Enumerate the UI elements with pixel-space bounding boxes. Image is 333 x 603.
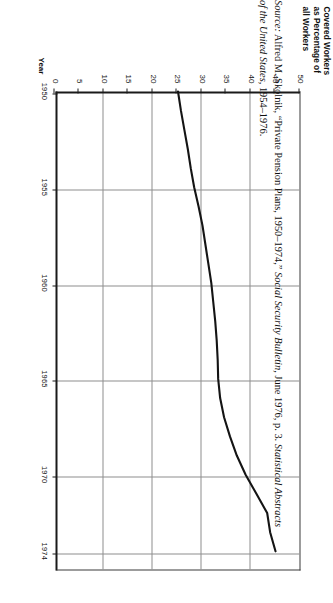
- x-axis-tick-label: 1955: [39, 178, 48, 196]
- source-publication-2: Statistical Abstracts: [273, 444, 284, 527]
- y-axis-tick-label: 50: [296, 65, 305, 83]
- source-text-a: Alfred M. Skolnik, “Private Pension Plan…: [273, 32, 284, 272]
- y-axis-tick-label: 30: [198, 65, 207, 83]
- source-note-line-1: Source: Alfred M. Skolnik, “Private Pens…: [271, 0, 286, 603]
- source-note: Source: Alfred M. Skolnik, “Private Pens…: [239, 0, 286, 603]
- source-text-e: 1954–1976.: [258, 84, 269, 136]
- y-axis-tick-label: 35: [222, 65, 231, 83]
- y-axis-title-line-2: as Percentage of: [310, 6, 320, 126]
- y-axis-tick-label: 10: [100, 65, 109, 83]
- y-axis-tick-label: 25: [173, 65, 182, 83]
- x-axis-tick-label: 1950: [39, 82, 48, 100]
- y-axis-tick-label: 5: [75, 65, 84, 83]
- y-axis-tick: [53, 88, 54, 93]
- source-label: Source:: [273, 0, 284, 32]
- source-text-c: June 1976, p. 3.: [273, 373, 284, 444]
- x-axis-tick-label: 1970: [39, 465, 48, 483]
- x-axis-tick-label: 1960: [39, 274, 48, 292]
- x-axis-title: Year: [36, 57, 45, 74]
- x-axis-tick-label: 1965: [39, 370, 48, 388]
- y-axis-tick-label: 0: [51, 65, 60, 83]
- y-axis-title-line-1: Covered Workers: [321, 6, 331, 126]
- source-note-line-2: of the United States, 1954–1976.: [256, 0, 271, 603]
- y-axis-tick-label: 15: [124, 65, 133, 83]
- x-axis-tick-label: 1974: [39, 542, 48, 560]
- y-axis-tick-label: 20: [149, 65, 158, 83]
- source-publication: Social Security Bulletin,: [273, 272, 284, 373]
- source-publication-2-cont: of the United States,: [258, 0, 269, 84]
